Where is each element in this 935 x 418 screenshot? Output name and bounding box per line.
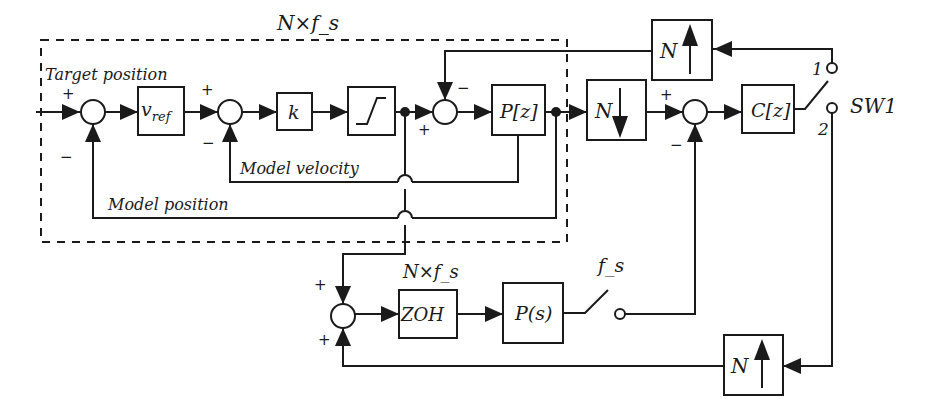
- gain-k-label: k: [288, 101, 300, 123]
- sum5-bottom-plus-sign: +: [318, 331, 331, 349]
- switch-pos1-label: 1: [812, 59, 823, 79]
- downsample-label: N: [594, 99, 614, 123]
- plant-output-line: [625, 124, 695, 314]
- sampler-terminal: [615, 309, 625, 319]
- feedback-path-bottom: [783, 113, 832, 366]
- model-position-label: Model position: [107, 195, 229, 214]
- line-crossover: [398, 211, 412, 218]
- arrow-icon: [381, 306, 399, 322]
- arrow-icon: [724, 104, 742, 120]
- sum-junction-5: [331, 304, 355, 328]
- arrow-icon: [200, 104, 218, 120]
- pz-label: P[z]: [499, 100, 538, 122]
- arrow-icon: [474, 104, 492, 120]
- switch-blade: [794, 81, 828, 109]
- model-velocity-label: Model velocity: [239, 159, 360, 178]
- switch-name-label: SW1: [850, 94, 897, 118]
- zoh-label: ZOH: [400, 304, 444, 325]
- model-velocity-line: [412, 135, 518, 182]
- saturated-output-line: [343, 225, 405, 304]
- switch-terminal-2: [827, 103, 837, 113]
- sum-junction-1: [81, 100, 105, 124]
- sum5-top-plus-sign: +: [314, 276, 327, 294]
- sum3-minus-sign: −: [457, 79, 470, 97]
- ps-label: P(s): [514, 302, 552, 324]
- target-position-label: Target position: [45, 65, 168, 84]
- sampler-rate-label: f_s: [596, 254, 625, 277]
- sum1-minus-sign: −: [60, 148, 73, 166]
- switch-pos2-label: 2: [817, 119, 829, 139]
- block-diagram: N×f_s Target position + − vref + − k + −…: [0, 0, 935, 418]
- arrow-icon: [569, 104, 587, 120]
- zoh-rate-label: N×f_s: [402, 261, 459, 283]
- arrow-icon: [415, 104, 433, 120]
- sum-junction-3: [433, 100, 457, 124]
- arrow-icon: [335, 286, 351, 304]
- line-crossover: [398, 175, 412, 182]
- sum-junction-2: [218, 100, 242, 124]
- cz-label: C[z]: [751, 99, 791, 121]
- sampler-switch: [563, 290, 608, 313]
- arrow-icon: [437, 82, 453, 100]
- sum2-minus-sign: −: [202, 134, 215, 152]
- arrow-icon: [259, 104, 277, 120]
- arrow-icon: [62, 104, 80, 120]
- arrow-icon: [687, 124, 703, 142]
- upsample-bottom-label: N: [730, 354, 750, 378]
- sum4-minus-sign: −: [670, 136, 683, 154]
- arrow-icon: [665, 104, 683, 120]
- arrow-icon: [85, 124, 101, 142]
- arrow-icon: [120, 104, 138, 120]
- sum3-plus-sign: +: [418, 121, 431, 139]
- arrow-icon: [783, 358, 801, 374]
- upsample-top-label: N: [659, 39, 679, 63]
- arrow-icon: [222, 124, 238, 142]
- sum2-plus-sign: +: [201, 81, 214, 99]
- sum1-plus-sign: +: [62, 85, 75, 103]
- arrow-icon: [714, 41, 732, 57]
- region-rate-label: N×f_s: [276, 11, 339, 35]
- arrow-icon: [330, 104, 348, 120]
- arrow-icon: [335, 328, 351, 346]
- sum-junction-4: [683, 100, 707, 124]
- switch-terminal-1: [827, 63, 837, 73]
- sum4-plus-sign: +: [660, 86, 673, 104]
- arrow-icon: [485, 306, 503, 322]
